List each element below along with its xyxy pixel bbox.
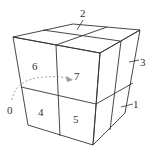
- right-face-vertical-divider: [110, 41, 121, 130]
- right-face: [93, 30, 140, 145]
- label-cube-2: 2: [80, 7, 86, 19]
- top-face-divider-2: [56, 27, 107, 45]
- label-cube-1: 1: [133, 98, 139, 110]
- front-face: [13, 37, 100, 145]
- front-face-vertical-divider: [56, 45, 60, 136]
- arrowhead-icon: [66, 76, 73, 82]
- label-cube-7: 7: [74, 70, 80, 82]
- right-face-outline: [93, 30, 140, 145]
- label-cube-0: 0: [7, 104, 13, 116]
- label-cube-5: 5: [73, 113, 79, 125]
- label-cube-6: 6: [32, 60, 38, 72]
- label-cube-4: 4: [38, 106, 44, 118]
- cube-diagram: 2 3 1 6 7 4 5 0: [0, 0, 155, 150]
- top-face-divider-1: [43, 30, 120, 41]
- label-cube-3: 3: [140, 56, 146, 68]
